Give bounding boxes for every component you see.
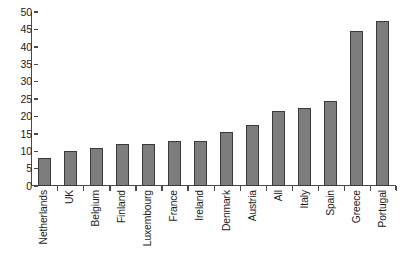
x-tick-label: UK <box>65 190 75 204</box>
x-tick-label-slot: All <box>267 190 291 256</box>
x-tick-label-slot: Portugal <box>371 190 395 256</box>
x-tick-label: Italy <box>300 190 310 208</box>
x-tick-label-slot: Austria <box>241 190 265 256</box>
x-axis-labels: NetherlandsUKBelgiumFinlandLuxembourgFra… <box>31 190 396 257</box>
x-tick-mark <box>396 186 397 191</box>
bar <box>142 144 155 186</box>
x-tick-label-slot: Spain <box>319 190 343 256</box>
x-tick-label: Ireland <box>195 190 205 221</box>
x-tick-label-slot: Netherlands <box>32 190 56 256</box>
x-tick-label: Austria <box>247 190 257 221</box>
x-tick-label-slot: UK <box>58 190 82 256</box>
bar <box>272 111 285 186</box>
plot-area <box>31 12 396 186</box>
x-tick-label: Belgium <box>91 190 101 227</box>
x-tick-label: Denmark <box>221 190 231 231</box>
bar <box>246 125 259 186</box>
x-tick-label-slot: Belgium <box>84 190 108 256</box>
x-tick-label: Netherlands <box>39 190 49 244</box>
bar <box>324 101 337 186</box>
bar <box>168 141 181 186</box>
bar <box>298 108 311 186</box>
bar <box>376 21 389 186</box>
bar <box>350 31 363 186</box>
bar <box>64 151 77 186</box>
bar <box>90 148 103 186</box>
bar <box>194 141 207 186</box>
x-tick-label-slot: Italy <box>293 190 317 256</box>
bar <box>38 158 51 186</box>
x-tick-label-slot: Luxembourg <box>136 190 160 256</box>
x-tick-label: Greece <box>352 190 362 223</box>
x-tick-label: All <box>274 190 284 201</box>
x-tick-label: France <box>169 190 179 221</box>
x-tick-label-slot: Denmark <box>215 190 239 256</box>
x-tick-label: Portugal <box>378 190 388 228</box>
x-tick-label-slot: Finland <box>110 190 134 256</box>
x-tick-label-slot: Greece <box>345 190 369 256</box>
x-tick-label: Spain <box>326 190 336 216</box>
x-tick-label: Luxembourg <box>143 190 153 246</box>
bar-chart-figure: 05101520253035404550 NetherlandsUKBelgiu… <box>0 0 403 257</box>
x-tick-label: Finland <box>117 190 127 223</box>
bar <box>116 144 129 186</box>
bar <box>220 132 233 186</box>
x-tick-label-slot: Ireland <box>188 190 212 256</box>
x-tick-label-slot: France <box>162 190 186 256</box>
